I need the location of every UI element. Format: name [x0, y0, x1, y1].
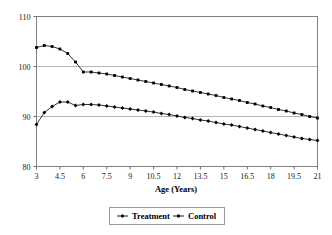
data-point-control: [277, 108, 280, 111]
legend-label: Control: [188, 211, 217, 221]
data-point-control: [261, 105, 264, 108]
chart-background: [0, 0, 332, 235]
x-tick-label: 19.5: [287, 172, 301, 181]
data-point-control: [137, 79, 140, 82]
data-point-control: [168, 85, 171, 88]
x-tick-label: 16.5: [240, 172, 254, 181]
x-axis-title: Age (Years): [155, 184, 197, 194]
data-point-control: [121, 76, 124, 79]
data-point-control: [183, 88, 186, 91]
data-point-control: [160, 83, 163, 86]
x-tick-label: 15: [220, 172, 228, 181]
data-point-control: [113, 74, 116, 77]
x-tick-label: 18: [267, 172, 275, 181]
data-point-control: [300, 113, 303, 116]
data-point-control: [66, 52, 69, 55]
x-tick-label: 6: [81, 172, 85, 181]
data-point-control: [293, 112, 296, 115]
data-point-control: [191, 90, 194, 93]
data-point-control: [246, 101, 249, 104]
y-tick-label: 100: [19, 63, 31, 72]
x-tick-label: 10.5: [147, 172, 161, 181]
data-point-control: [308, 115, 311, 118]
x-tick-label: 21: [314, 172, 322, 181]
x-tick-label: 4.5: [55, 172, 65, 181]
x-tick-label: 7.5: [102, 172, 112, 181]
line-chart: 34.567.5910.51213.51516.51819.521 809010…: [0, 0, 332, 235]
data-point-control: [176, 86, 179, 89]
data-point-control: [152, 82, 155, 85]
data-point-control: [43, 44, 46, 47]
data-point-control: [222, 96, 225, 99]
x-tick-label: 13.5: [193, 172, 207, 181]
chart-legend: TreatmentControl: [110, 208, 225, 225]
data-point-control: [74, 61, 77, 64]
data-point-control: [82, 71, 85, 74]
chart-figure: 34.567.5910.51213.51516.51819.521 809010…: [0, 0, 332, 235]
data-point-control: [285, 110, 288, 113]
y-tick-label: 90: [23, 113, 31, 122]
data-point-control: [90, 71, 93, 74]
data-point-control: [269, 106, 272, 109]
data-point-control: [215, 94, 218, 97]
data-point-control: [199, 91, 202, 94]
data-point-control: [230, 98, 233, 101]
x-tick-label: 12: [173, 172, 181, 181]
data-point-control: [105, 73, 108, 76]
data-point-control: [98, 72, 101, 75]
x-tick-label: 9: [128, 172, 132, 181]
y-tick-label: 110: [19, 13, 31, 22]
data-point-control: [254, 103, 257, 106]
data-point-control: [129, 77, 132, 80]
data-point-control: [35, 46, 38, 49]
legend-label: Treatment: [132, 211, 170, 221]
data-point-control: [51, 45, 54, 48]
x-tick-label: 3: [35, 172, 39, 181]
data-point-control: [238, 99, 241, 102]
data-point-control: [316, 117, 319, 120]
y-tick-label: 80: [23, 163, 31, 172]
legend-marker-icon: [177, 215, 180, 218]
data-point-control: [207, 93, 210, 96]
data-point-control: [144, 80, 147, 83]
data-point-control: [59, 48, 62, 51]
